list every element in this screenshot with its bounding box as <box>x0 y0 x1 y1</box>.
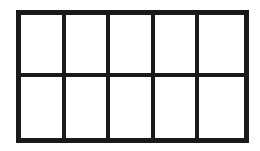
grid-cell <box>110 77 155 139</box>
grid-cell <box>199 77 244 139</box>
grid-cell <box>199 15 244 77</box>
grid-cell <box>155 15 200 77</box>
grid-2x5 <box>16 10 249 143</box>
grid-cell <box>21 77 66 139</box>
grid-cell <box>110 15 155 77</box>
grid-cell <box>155 77 200 139</box>
grid-cell <box>21 15 66 77</box>
grid-cell <box>66 77 111 139</box>
grid-cell <box>66 15 111 77</box>
